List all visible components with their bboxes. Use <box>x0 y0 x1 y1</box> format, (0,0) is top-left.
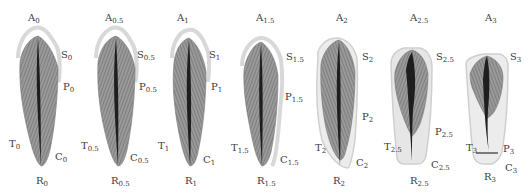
label-P3: P3 <box>503 144 514 156</box>
label-T2.5: T2.5 <box>384 142 402 154</box>
label-A2: A2 <box>336 13 348 25</box>
label-R0: R0 <box>36 176 48 188</box>
label-S3: S3 <box>510 52 521 64</box>
label-P1: P1 <box>211 82 222 94</box>
label-T1: T1 <box>158 141 169 153</box>
label-T2: T2 <box>315 143 326 155</box>
label-S1.5: S1.5 <box>286 52 304 64</box>
label-C2: C2 <box>356 158 368 170</box>
label-P2.5: P2.5 <box>435 127 453 139</box>
label-S1: S1 <box>209 50 220 62</box>
label-C1: C1 <box>203 155 215 167</box>
tooth-stage-0.5 <box>96 27 137 166</box>
label-R0.5: R0.5 <box>111 176 130 188</box>
label-A3: A3 <box>485 13 497 25</box>
label-C3: C3 <box>505 163 517 175</box>
label-A0.5: A0.5 <box>105 13 123 25</box>
label-R3: R3 <box>484 172 496 184</box>
label-C0.5: C0.5 <box>130 153 149 165</box>
tooth-stages-figure: A0 S0 P0 T0 C0 R0 A0.5 S0.5 P0.5 T0.5 C0… <box>0 0 531 196</box>
tooth-shapes-graphic <box>0 0 531 196</box>
label-A1.5: A1.5 <box>256 13 274 25</box>
label-P0: P0 <box>63 82 74 94</box>
label-C2.5: C2.5 <box>431 160 450 172</box>
label-C0: C0 <box>55 152 67 164</box>
tooth-stage-1 <box>172 30 209 166</box>
label-T3: T3 <box>466 143 477 155</box>
label-R1: R1 <box>185 176 197 188</box>
label-S2: S2 <box>362 52 373 64</box>
label-A2.5: A2.5 <box>410 13 428 25</box>
label-R2.5: R2.5 <box>410 176 429 188</box>
label-T1.5: T1.5 <box>231 143 249 155</box>
tooth-stage-0 <box>18 27 60 166</box>
label-R2: R2 <box>333 176 345 188</box>
label-S0.5: S0.5 <box>137 50 155 62</box>
label-T0: T0 <box>9 139 20 151</box>
label-P0.5: P0.5 <box>139 82 157 94</box>
label-S0: S0 <box>61 50 72 62</box>
label-T0.5: T0.5 <box>81 141 99 153</box>
label-R1.5: R1.5 <box>257 176 276 188</box>
label-P1.5: P1.5 <box>285 92 303 104</box>
label-S2.5: S2.5 <box>436 52 454 64</box>
label-P2: P2 <box>362 112 373 124</box>
label-A0: A0 <box>28 13 40 25</box>
label-C1.5: C1.5 <box>280 155 299 167</box>
label-A1: A1 <box>177 13 189 25</box>
